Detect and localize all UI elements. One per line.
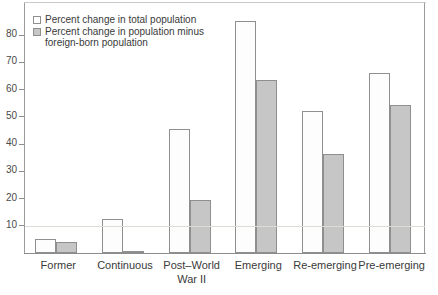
bar-total-population xyxy=(35,239,56,253)
y-axis-tick-label: 80 xyxy=(6,28,17,39)
y-axis-tick-label: 30 xyxy=(6,164,17,175)
y-axis-tick-label: 10 xyxy=(6,219,17,230)
legend-label-total: Percent change in total population xyxy=(45,14,196,25)
bar-total-population xyxy=(235,21,256,253)
bar-total-population xyxy=(169,129,190,253)
tick-mark xyxy=(19,62,24,63)
open-square-swatch-icon xyxy=(33,16,41,24)
y-axis-tick-label: 40 xyxy=(6,137,17,148)
tick-mark xyxy=(19,198,24,199)
tick-mark xyxy=(19,116,24,117)
bar-total-population xyxy=(302,111,323,253)
bar-group xyxy=(292,0,359,254)
legend-label-minus: Percent change in population minus forei… xyxy=(45,26,204,48)
tick-mark xyxy=(19,35,24,36)
bar-population-minus-foreign-born xyxy=(123,251,144,253)
bar-population-minus-foreign-born xyxy=(323,154,344,253)
legend-item-total: Percent change in total population xyxy=(33,14,263,25)
y-axis: 1020304050607080 xyxy=(0,0,24,295)
bar-chart: 1020304050607080 FormerContinuousPost–Wo… xyxy=(0,0,438,295)
bar-population-minus-foreign-born xyxy=(256,80,277,253)
legend-item-minus: Percent change in population minus forei… xyxy=(33,26,263,48)
y-axis-tick-label: 70 xyxy=(6,55,17,66)
bar-population-minus-foreign-born xyxy=(56,242,77,253)
legend: Percent change in total population Perce… xyxy=(33,14,263,49)
gridline-10 xyxy=(25,226,425,227)
x-axis-label: Pre-emerging xyxy=(350,258,433,272)
bar-group xyxy=(358,0,425,254)
tick-mark xyxy=(19,144,24,145)
y-axis-tick-label: 50 xyxy=(6,110,17,121)
tick-mark xyxy=(19,225,24,226)
tick-mark xyxy=(19,171,24,172)
y-axis-tick-label: 20 xyxy=(6,192,17,203)
bar-total-population xyxy=(102,219,123,253)
tick-mark xyxy=(19,89,24,90)
x-axis-labels: FormerContinuousPost–World War IIEmergin… xyxy=(25,258,425,295)
y-axis-tick-label: 60 xyxy=(6,83,17,94)
bar-population-minus-foreign-born xyxy=(390,105,411,254)
filled-square-swatch-icon xyxy=(33,28,41,36)
